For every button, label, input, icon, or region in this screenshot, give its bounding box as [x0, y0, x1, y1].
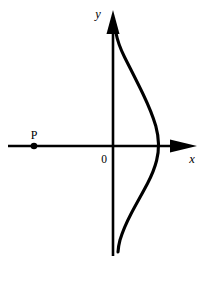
- origin-label: 0: [101, 153, 107, 165]
- point-p-marker: [31, 143, 38, 150]
- coordinate-graph: y x 0 P: [0, 0, 210, 283]
- point-p-label: P: [31, 128, 38, 142]
- x-axis-label: x: [188, 152, 195, 166]
- y-axis-label: y: [93, 7, 101, 21]
- figure-canvas: y x 0 P: [0, 0, 210, 283]
